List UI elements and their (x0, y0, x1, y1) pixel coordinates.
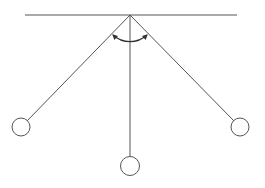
pendulum-diagram (0, 0, 265, 188)
right-string (130, 15, 234, 121)
center-bob (121, 157, 140, 176)
left-string (27, 15, 130, 121)
right-bob (231, 118, 249, 136)
left-bob (12, 118, 30, 136)
